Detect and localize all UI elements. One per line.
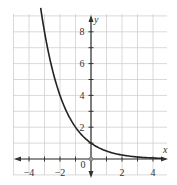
svg-text:2: 2 (80, 122, 85, 133)
x-axis-label: x (162, 144, 168, 155)
svg-text:6: 6 (80, 58, 85, 69)
svg-text:8: 8 (80, 26, 85, 37)
axes (14, 15, 168, 178)
svg-text:−4: −4 (24, 167, 35, 178)
svg-text:2: 2 (120, 167, 125, 178)
exponential-chart: −4−20242468 x y (0, 0, 177, 185)
svg-text:4: 4 (151, 167, 156, 178)
grid (13, 14, 167, 175)
svg-text:4: 4 (80, 90, 85, 101)
svg-text:0: 0 (81, 159, 86, 170)
svg-text:−2: −2 (55, 167, 66, 178)
tick-labels: −4−20242468 (24, 26, 156, 178)
y-axis-label: y (93, 14, 99, 25)
curve-line (41, 8, 163, 158)
